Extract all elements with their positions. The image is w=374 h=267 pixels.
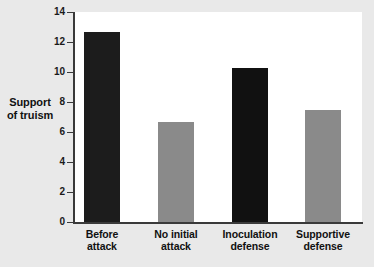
- x-category-label-before-attack: Before attack: [63, 228, 141, 252]
- x-category-label-supportive-defense: Supportive defense: [284, 228, 362, 252]
- bar-chart: Support of truism 14 12 10 8 6 4 2 0 Bef…: [0, 0, 374, 267]
- x-category-line-1: Before: [63, 228, 141, 240]
- x-category-label-no-initial-attack: No initial attack: [137, 228, 215, 252]
- plot-area: [75, 12, 362, 222]
- y-tick-label-12: 12: [25, 37, 65, 47]
- x-axis-line: [73, 222, 363, 224]
- y-tick-label-2: 2: [25, 187, 65, 197]
- x-category-line-1: Supportive: [284, 228, 362, 240]
- bar-before-attack: [84, 32, 120, 223]
- x-category-line-2: defense: [211, 240, 289, 252]
- x-category-label-inoculation-defense: Inoculation defense: [211, 228, 289, 252]
- x-category-line-2: attack: [63, 240, 141, 252]
- y-tick-label-14: 14: [25, 7, 65, 17]
- x-category-line-1: Inoculation: [211, 228, 289, 240]
- bar-inoculation-defense: [232, 68, 268, 223]
- y-axis-line: [73, 12, 75, 223]
- bar-no-initial-attack: [158, 122, 194, 223]
- y-tick-label-10: 10: [25, 67, 65, 77]
- y-tick-label-8: 8: [25, 97, 65, 107]
- x-category-line-1: No initial: [137, 228, 215, 240]
- bar-supportive-defense: [305, 110, 341, 223]
- x-category-line-2: defense: [284, 240, 362, 252]
- y-tick-label-6: 6: [25, 127, 65, 137]
- y-tick-label-0: 0: [25, 217, 65, 227]
- y-axis-label-line-2: of truism: [2, 109, 58, 122]
- y-tick-label-4: 4: [25, 157, 65, 167]
- x-category-line-2: attack: [137, 240, 215, 252]
